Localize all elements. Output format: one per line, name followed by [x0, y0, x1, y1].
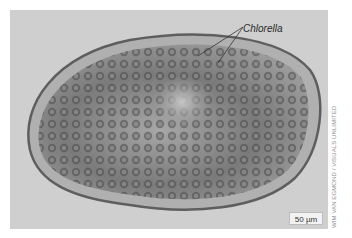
chlorella-label: Chlorella — [243, 23, 282, 34]
cell-illustration — [10, 10, 328, 229]
micrograph — [10, 10, 328, 229]
photo-credit: WIM VAN EGMOND / VISUALS UNLIMITED — [331, 106, 337, 228]
scale-bar: 50 µm — [289, 212, 323, 225]
nucleus — [152, 76, 212, 128]
